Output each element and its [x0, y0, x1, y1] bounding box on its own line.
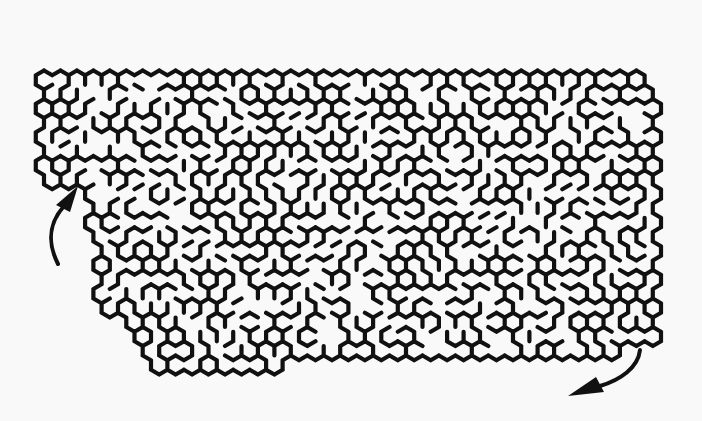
hex-maze — [0, 0, 702, 421]
maze-wall-segments — [36, 71, 661, 375]
entrance-arrow-icon — [51, 186, 78, 264]
maze-walls — [36, 71, 661, 375]
